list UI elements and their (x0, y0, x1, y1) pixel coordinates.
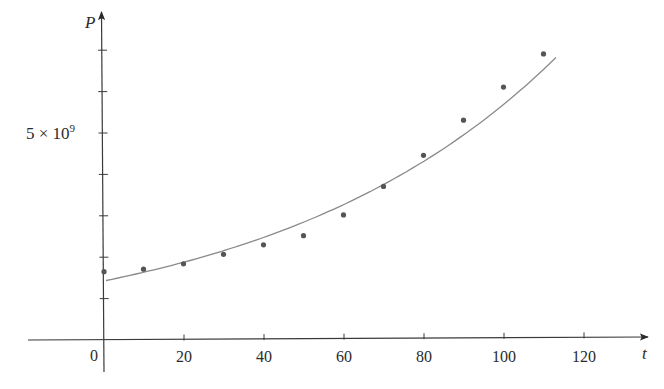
data-point (381, 184, 386, 189)
x-tick-label: 100 (492, 348, 516, 365)
data-point (461, 118, 466, 123)
population-chart: P t 0 5 × 109 20406080100120 (0, 0, 664, 389)
x-tick-labels: 20406080100120 (176, 348, 596, 365)
data-points (101, 51, 546, 274)
data-point (101, 269, 106, 274)
x-tick-label: 80 (416, 348, 432, 365)
x-tick-label: 20 (176, 348, 192, 365)
x-axis (28, 337, 648, 340)
data-point (541, 51, 546, 56)
y-axis (102, 12, 105, 372)
x-tick-label: 120 (572, 348, 596, 365)
y-tick-label-5e9: 5 × 109 (26, 122, 76, 143)
data-point (141, 267, 146, 272)
x-tick-label: 40 (256, 348, 272, 365)
y-axis-label: P (84, 13, 95, 32)
data-point (221, 252, 226, 257)
x-tick-label: 60 (336, 348, 352, 365)
data-point (261, 242, 266, 247)
data-point (181, 261, 186, 266)
data-point (501, 84, 506, 89)
data-point (341, 212, 346, 217)
origin-label: 0 (90, 347, 98, 364)
x-axis-label: t (642, 344, 648, 363)
exponential-model-curve (106, 58, 556, 281)
data-point (421, 153, 426, 158)
data-point (301, 233, 306, 238)
